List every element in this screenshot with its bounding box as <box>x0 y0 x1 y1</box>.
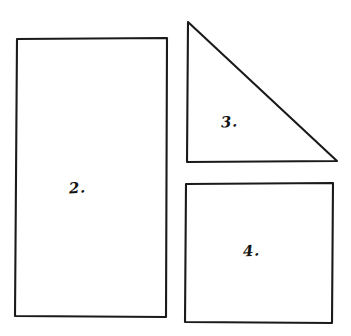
shapes-drawing <box>0 0 351 336</box>
worksheet-canvas: 2. 3. 4. <box>0 0 351 336</box>
shape-rectangle-2[interactable] <box>15 38 167 317</box>
shape-triangle-3[interactable] <box>187 22 337 162</box>
shape-label-3: 3. <box>220 112 238 131</box>
shape-label-4: 4. <box>242 241 260 260</box>
shape-label-2: 2. <box>68 178 86 197</box>
